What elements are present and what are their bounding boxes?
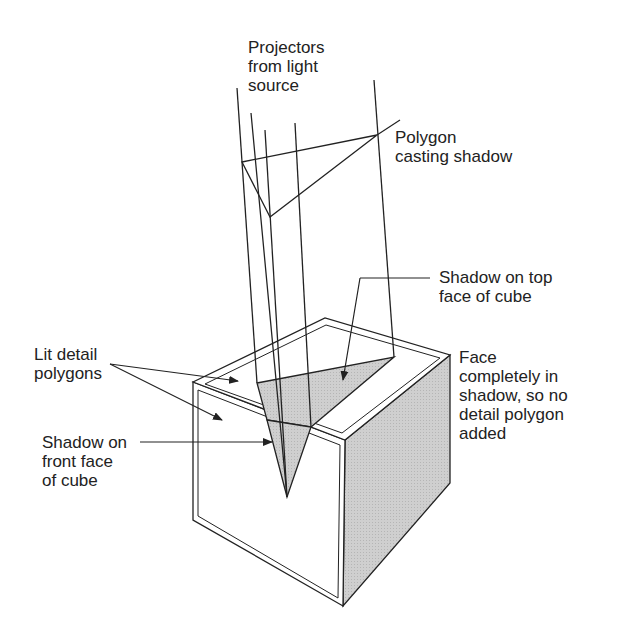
label-shadow-top-face: Shadow on top face of cube <box>439 268 552 306</box>
label-face-completely-in-shadow: Face completely in shadow, so no detail … <box>459 348 568 443</box>
shadow-diagram <box>0 0 620 634</box>
label-polygon-casting-shadow: Polygon casting shadow <box>395 128 512 166</box>
label-lit-detail-polygons: Lit detail polygons <box>34 345 102 383</box>
label-projectors: Projectors from light source <box>248 38 325 95</box>
label-shadow-front-face: Shadow on front face of cube <box>42 433 127 490</box>
shadow-casting-polygon <box>242 135 377 217</box>
